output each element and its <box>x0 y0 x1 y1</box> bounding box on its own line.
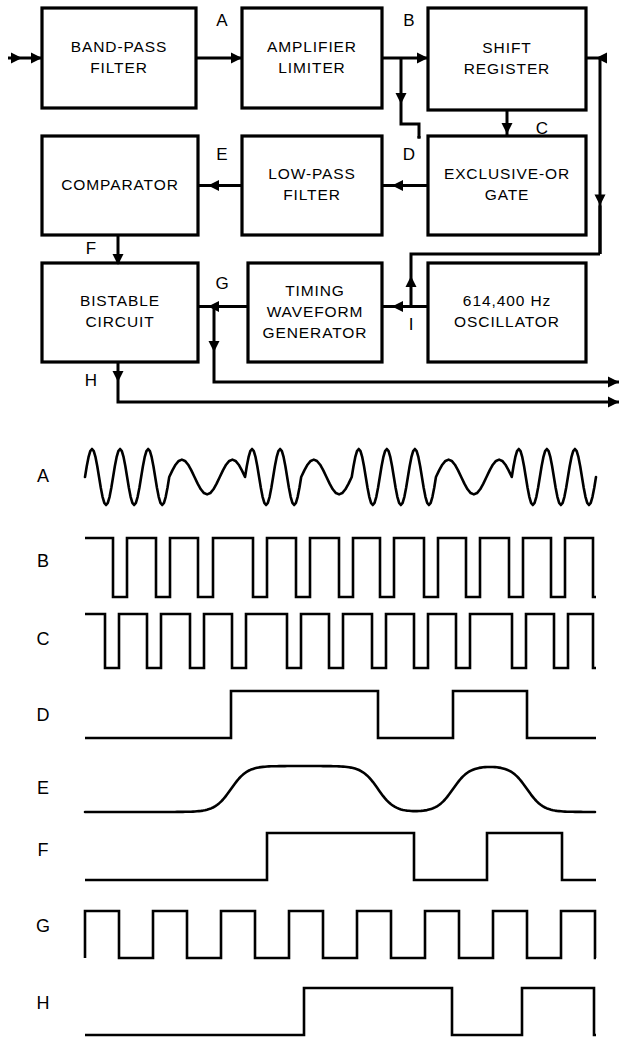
waveform-d-trace <box>85 691 596 738</box>
block-label-low-pass-filter: FILTER <box>283 186 341 203</box>
block-label-exclusive-or-gate: EXCLUSIVE-OR <box>444 165 570 182</box>
diagram-node-i-label: I <box>409 315 414 334</box>
block-label-band-pass-filter: FILTER <box>90 59 148 76</box>
arrow-h-output-right <box>608 397 619 408</box>
diagram-node-d-label: D <box>403 145 415 164</box>
wave-h-label: H <box>37 993 50 1013</box>
arrow-i-into-timing <box>392 301 403 312</box>
block-label-timing-waveform-generator: TIMING <box>285 282 345 299</box>
waveform-e-trace <box>85 766 595 812</box>
block-label-oscillator: OSCILLATOR <box>454 313 560 330</box>
wave-a-label: A <box>37 466 49 486</box>
waveform-a-trace <box>85 449 596 505</box>
arrow-i-branch-up <box>406 276 417 287</box>
diagram-node-a-label: A <box>216 11 228 30</box>
arrow-a-into-amplifier <box>231 53 242 64</box>
waveform-b-trace <box>85 538 596 597</box>
block-label-comparator: COMPARATOR <box>61 176 179 193</box>
arrow-g-output-right <box>608 377 619 388</box>
arrow-input-source <box>11 53 22 64</box>
arrow-input-to-bandpass <box>31 53 42 64</box>
diagram-node-g-label: G <box>215 274 228 293</box>
block-label-shift-register: REGISTER <box>464 60 550 77</box>
block-label-bistable-circuit: CIRCUIT <box>85 313 154 330</box>
arrow-clock-rail-down <box>595 195 606 206</box>
block-label-band-pass-filter: BAND-PASS <box>71 38 168 55</box>
diagram-node-h-label: H <box>85 371 97 390</box>
waveform-g-trace <box>85 911 596 958</box>
wave-f-label: F <box>38 840 49 860</box>
figure-canvas: BAND-PASSFILTERAMPLIFIERLIMITERSHIFTREGI… <box>0 0 629 1060</box>
block-label-amplifier-limiter: AMPLIFIER <box>267 38 357 55</box>
block-label-bistable-circuit: BISTABLE <box>80 292 160 309</box>
wave-b-label: B <box>37 551 49 571</box>
arrow-c-into-xor <box>502 123 513 134</box>
diagram-node-f-label: F <box>86 239 96 258</box>
arrow-b-tap-down <box>396 93 407 104</box>
block-label-amplifier-limiter: LIMITER <box>278 59 345 76</box>
arrow-g-tap-down <box>209 341 220 352</box>
arrow-h-down <box>113 371 124 382</box>
wave-d-label: D <box>37 705 50 725</box>
waveform-h-trace <box>85 988 596 1035</box>
diagram-node-e-label: E <box>216 145 227 164</box>
wave-e-label: E <box>37 778 49 798</box>
block-label-exclusive-or-gate: GATE <box>485 186 530 203</box>
block-label-timing-waveform-generator: GENERATOR <box>263 324 368 341</box>
waveform-c-trace <box>85 614 596 668</box>
diagram-node-c-label: C <box>536 119 548 138</box>
block-label-timing-waveform-generator: WAVEFORM <box>267 303 364 320</box>
wave-g-label: G <box>36 916 50 936</box>
arrow-b-into-shift-register <box>417 53 428 64</box>
arrow-e-into-comparator <box>208 180 219 191</box>
block-label-low-pass-filter: LOW-PASS <box>268 165 356 182</box>
block-diagram-and-waveforms-svg: BAND-PASSFILTERAMPLIFIERLIMITERSHIFTREGI… <box>0 0 629 1060</box>
wave-c-label: C <box>37 629 50 649</box>
diagram-node-b-label: B <box>403 11 414 30</box>
arrow-d-into-lowpass <box>392 180 403 191</box>
block-label-oscillator: 614,400 Hz <box>463 292 551 309</box>
block-label-shift-register: SHIFT <box>482 39 531 56</box>
waveform-f-trace <box>85 833 596 880</box>
